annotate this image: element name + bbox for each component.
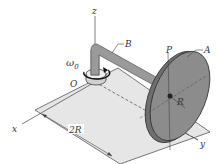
pivot-label: O <box>70 79 78 89</box>
x-axis-label: x <box>12 124 17 134</box>
z-axis-label: z <box>91 6 97 16</box>
arm-label: B <box>124 39 132 49</box>
omega-label: ω0 <box>66 57 79 71</box>
radius-label: R <box>176 97 184 107</box>
distance-label: 2R <box>68 125 82 135</box>
mechanism-diagram: x y z 2R ω0 O B R P A <box>0 0 222 164</box>
point-label: P <box>165 45 173 55</box>
y-axis-label: y <box>199 139 206 149</box>
disk-hub <box>168 94 173 99</box>
disk-label: A <box>203 45 211 55</box>
